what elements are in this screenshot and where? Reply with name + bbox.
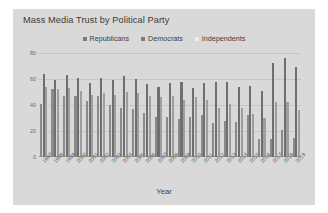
bar-group (235, 53, 242, 157)
bar-independents (126, 92, 128, 157)
bar-independents (137, 93, 139, 157)
bar-group (189, 53, 196, 157)
bar-independents (241, 108, 243, 157)
bar-independents (57, 89, 59, 157)
bar-independents (286, 102, 288, 157)
bar-independents (195, 97, 197, 157)
bar-independents (183, 100, 185, 157)
legend-label-republicans: Republicans (90, 34, 130, 43)
bar-independents (45, 87, 47, 157)
bar-group (109, 53, 116, 157)
y-tick-20: 20 (30, 128, 36, 134)
legend-swatch-democrats (141, 37, 145, 41)
bar-independents (160, 97, 162, 157)
bar-group (97, 53, 104, 157)
y-tick-60: 60 (30, 76, 36, 82)
bar-group (281, 53, 288, 157)
bar-group (155, 53, 162, 157)
bar-independents (275, 102, 277, 157)
bar-group (247, 53, 254, 157)
bar-independents (218, 108, 220, 157)
x-label-slot: 2017 (270, 159, 277, 187)
x-label-slot: 2010 (189, 159, 196, 187)
bar-independents (114, 95, 116, 157)
x-label-slot: 2009 (178, 159, 185, 187)
y-tick-0: 0 (33, 154, 36, 160)
legend-swatch-republicans (83, 37, 87, 41)
x-label-slot: 2004 (120, 159, 127, 187)
bar-group (120, 53, 127, 157)
bar-independents (298, 110, 300, 157)
bar-group (178, 53, 185, 157)
bar-group (74, 53, 81, 157)
chart-title: Mass Media Trust by Political Party (23, 15, 169, 25)
bar-group (132, 53, 139, 157)
bar-group (86, 53, 93, 157)
legend-item-republicans[interactable]: Republicans (83, 34, 130, 43)
legend-item-democrats[interactable]: Democrats (141, 34, 183, 43)
legend-swatch-independents (195, 37, 199, 41)
x-label-slot: 2003 (109, 159, 116, 187)
x-axis-title: Year (13, 187, 315, 196)
bar-independents (206, 100, 208, 157)
bar-group (166, 53, 173, 157)
bar-group (212, 53, 219, 157)
x-label-slot: 2015 (247, 159, 254, 187)
x-label-slot: 2016 (258, 159, 265, 187)
plot-area: 80 60 40 20 0 (39, 53, 301, 157)
chart-legend: Republicans Democrats Independents (13, 34, 315, 43)
bar-group (51, 53, 58, 157)
x-label-slot: 2001 (86, 159, 93, 187)
x-label-slot: 2005 (132, 159, 139, 187)
bar-group (143, 53, 150, 157)
bar-independents (252, 114, 254, 157)
x-label-slot: 2000 (74, 159, 81, 187)
y-tick-80: 80 (30, 50, 36, 56)
x-label-slot: 2012 (212, 159, 219, 187)
x-label-slot: 2006 (143, 159, 150, 187)
x-label-slot: 2002 (97, 159, 104, 187)
bar-independents (91, 95, 93, 157)
bar-group (40, 53, 47, 157)
bar-group (293, 53, 300, 157)
bar-group (201, 53, 208, 157)
legend-label-democrats: Democrats (148, 34, 183, 43)
bar-independents (103, 93, 105, 157)
x-label-slot: 1997 (40, 159, 47, 187)
bar-independents (172, 96, 174, 157)
y-tick-40: 40 (30, 102, 36, 108)
x-label-slot: 1999 (63, 159, 70, 187)
bar-group (224, 53, 231, 157)
x-label-slot: 2008 (166, 159, 173, 187)
legend-item-independents[interactable]: Independents (195, 34, 246, 43)
bar-groups (39, 53, 301, 157)
x-label-slot: 1998 (51, 159, 58, 187)
bar-group (63, 53, 70, 157)
bar-group (270, 53, 277, 157)
bar-independents (80, 91, 82, 157)
bar-group (258, 53, 265, 157)
bar-independents (229, 104, 231, 157)
bar-independents (149, 96, 151, 157)
x-label-slot: 2007 (155, 159, 162, 187)
legend-label-independents: Independents (202, 34, 246, 43)
x-label-slot: 2013 (224, 159, 231, 187)
x-label-slot: 2019 (293, 159, 300, 187)
chart-panel: Mass Media Trust by Political Party Repu… (13, 9, 315, 205)
x-label-slot: 2011 (201, 159, 208, 187)
x-axis-labels: 1997199819992000200120022003200420052006… (39, 159, 301, 187)
bar-independents (68, 88, 70, 157)
x-label-slot: 2014 (235, 159, 242, 187)
x-label-slot: 2018 (281, 159, 288, 187)
